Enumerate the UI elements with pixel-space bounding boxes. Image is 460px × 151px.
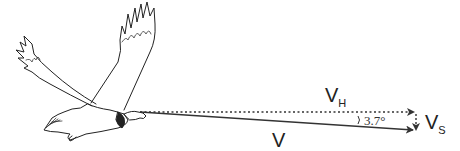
angle-arc: [358, 116, 360, 124]
bird-illustration: [16, 2, 155, 141]
v-label: V: [272, 129, 285, 151]
vh-subscript: H: [338, 97, 346, 109]
vs-label: VS: [425, 111, 446, 136]
bird-body: [44, 104, 128, 140]
vh-label: VH: [325, 84, 346, 109]
diagram-canvas: [0, 0, 460, 151]
lower-wing: [16, 36, 96, 106]
angle-label: 3.7°: [364, 113, 385, 129]
upper-wing: [91, 2, 155, 110]
vs-subscript: S: [438, 124, 445, 136]
